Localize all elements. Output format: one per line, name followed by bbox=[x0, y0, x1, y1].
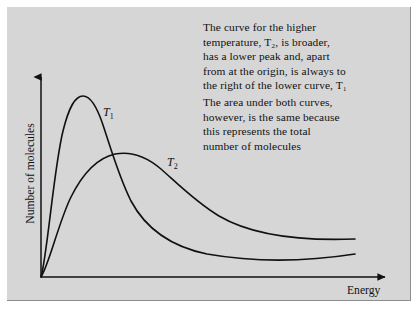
curve-label-t2-text: T bbox=[167, 155, 174, 169]
annotation-block-equal-area: The area under both curves, however, is … bbox=[203, 95, 408, 153]
curve-label-t1-text: T bbox=[103, 105, 110, 119]
annotation-block-higher-temperature: The curve for the higher temperature, T₂… bbox=[203, 20, 408, 93]
curve-label-t2-subscript: 2 bbox=[174, 162, 178, 171]
diagram-panel: Number of molecules Energy T1 T2 The cur… bbox=[7, 7, 411, 301]
y-axis-label: Number of molecules bbox=[24, 94, 37, 254]
curve-label-t1: T1 bbox=[103, 105, 114, 121]
curve-label-t2: T2 bbox=[167, 155, 178, 171]
diagram-screenshot: Number of molecules Energy T1 T2 The cur… bbox=[0, 0, 417, 315]
curve-label-t1-subscript: 1 bbox=[110, 112, 114, 121]
x-axis-label: Energy bbox=[347, 284, 380, 297]
